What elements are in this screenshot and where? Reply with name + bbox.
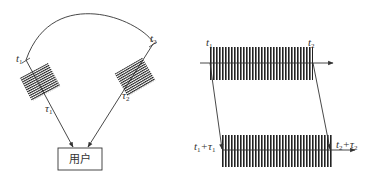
signal-band-top: [209, 47, 313, 80]
label-t1-left: t1: [16, 52, 23, 66]
label-t1-right: t1: [206, 36, 213, 50]
signal-band-bottom: [222, 135, 332, 167]
user-box: 用户: [58, 148, 102, 170]
path-arc: [26, 14, 153, 60]
signal-block-2: [115, 58, 156, 97]
label-t1-plus-tau1: t1+τ1: [194, 140, 216, 154]
label-t2-right: t2: [308, 36, 315, 50]
label-t2-left: t2: [150, 32, 157, 46]
label-t2-plus-tau2: t2+τ2: [336, 138, 358, 152]
user-box-label: 用户: [69, 152, 91, 166]
left-diagram: t1 t2 τ1 τ2 用户: [16, 14, 157, 170]
signal-block-1: [20, 63, 60, 101]
right-diagram: t1 t2 t1+τ1 t2+τ2: [194, 36, 358, 167]
signal-propagation-diagram: t1 t2 τ1 τ2 用户 t1: [0, 0, 367, 186]
label-tau1-left: τ1: [45, 102, 53, 116]
